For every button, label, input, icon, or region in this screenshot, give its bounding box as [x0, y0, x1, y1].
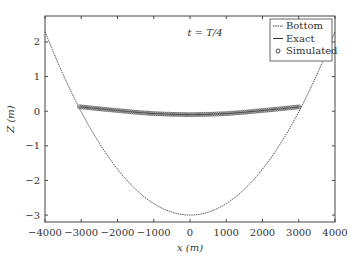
y-tick-label: −1 [25, 140, 40, 151]
x-tick-label: 1000 [214, 227, 239, 238]
y-tick-label: 1 [34, 71, 40, 82]
x-tick-label: −1000 [137, 227, 171, 238]
legend-label-bottom: Bottom [286, 20, 323, 31]
chart: −4000−3000−2000−100001000200030004000−3−… [0, 0, 364, 264]
x-tick-label: 2000 [250, 227, 275, 238]
x-tick-label: 4000 [322, 227, 347, 238]
y-tick-label: −3 [25, 210, 40, 221]
x-tick-label: 3000 [286, 227, 311, 238]
x-tick-label: −3000 [64, 227, 98, 238]
legend-label-simulated: Simulated [286, 45, 338, 56]
x-tick-label: 0 [187, 227, 193, 238]
x-axis-label: x (m) [177, 242, 203, 253]
y-tick-label: 2 [34, 36, 40, 47]
plot-svg: −4000−3000−2000−100001000200030004000−3−… [0, 0, 364, 264]
x-tick-label: −2000 [101, 227, 135, 238]
y-axis-label: Z (m) [5, 105, 16, 134]
y-tick-label: 0 [34, 106, 40, 117]
time-annotation: t = T/4 [187, 27, 222, 38]
y-tick-label: −2 [25, 175, 40, 186]
legend-label-exact: Exact [286, 33, 315, 44]
x-tick-label: −4000 [28, 227, 62, 238]
